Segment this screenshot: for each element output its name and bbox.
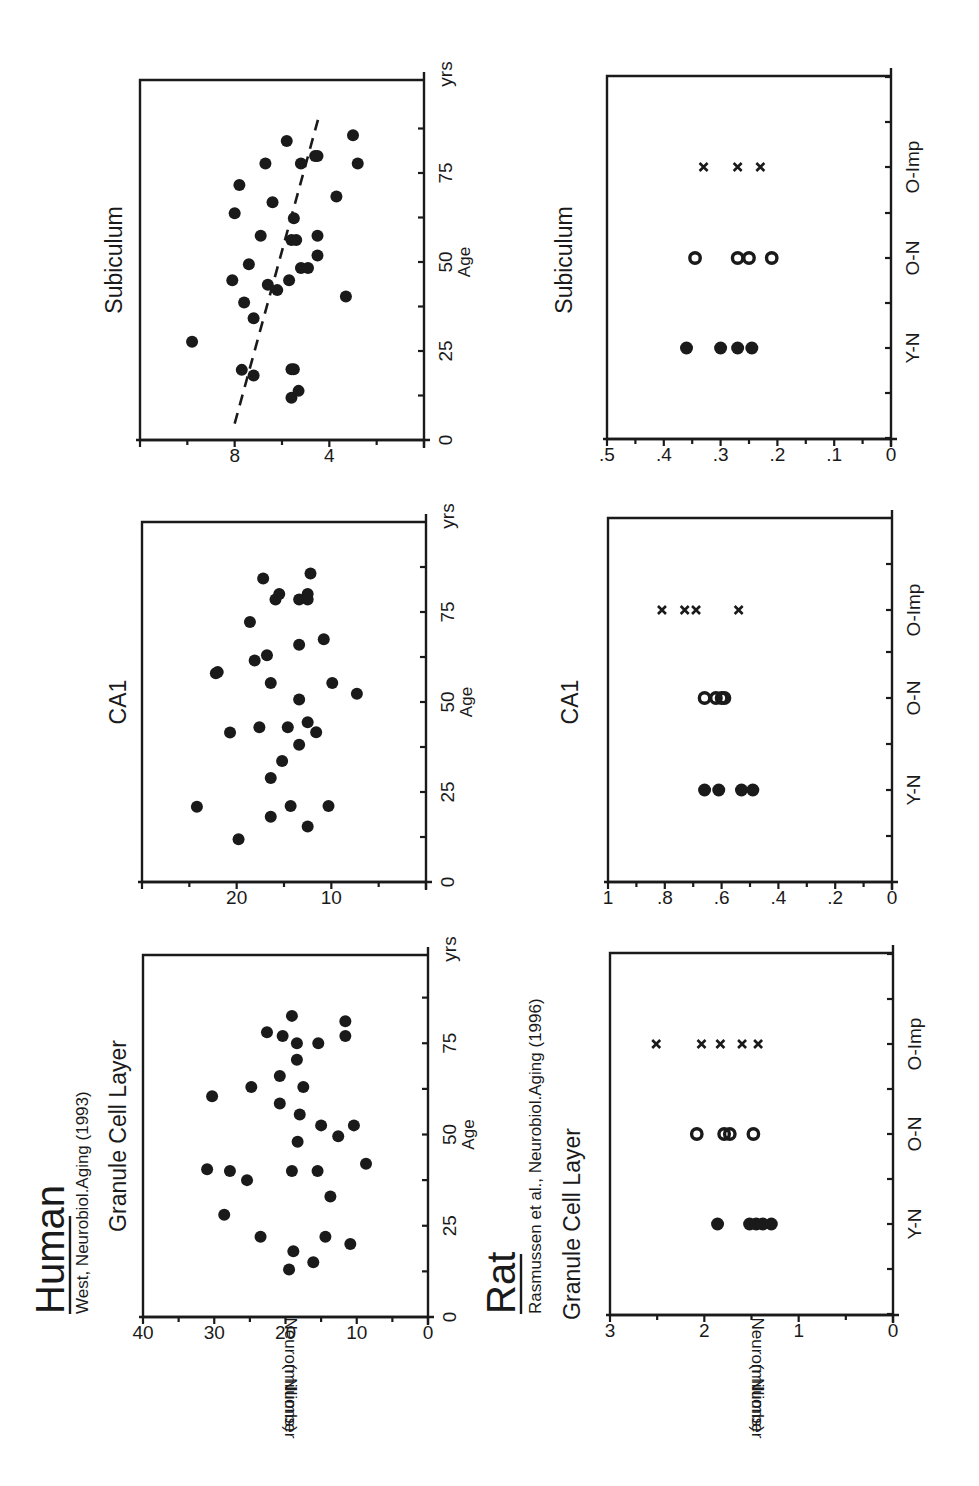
x-tick-label: 75 [437, 601, 458, 622]
panel-title: Granule Cell Layer [559, 1128, 585, 1320]
data-point-open [748, 1129, 758, 1139]
data-point [229, 207, 241, 219]
data-point-x [658, 606, 666, 614]
category-label: Y-N [903, 775, 924, 806]
data-point [348, 1119, 360, 1131]
data-point [293, 693, 305, 705]
data-point [310, 726, 322, 738]
y-tick-label: 3 [605, 1320, 616, 1341]
y-tick-label: 1 [793, 1320, 804, 1341]
y-tick-label: 20 [226, 887, 247, 908]
data-point [274, 1070, 286, 1082]
panel-human-ca1: CA110200255075yrsAge [105, 503, 476, 908]
category-label: Y-N [902, 333, 923, 364]
data-point [244, 616, 256, 628]
data-point [212, 666, 224, 678]
data-point [257, 573, 269, 585]
data-point [360, 1158, 372, 1170]
x-tick-label: 25 [437, 781, 458, 802]
x-tick-label: 50 [437, 691, 458, 712]
data-point [265, 677, 277, 689]
x-unit-label: yrs [439, 936, 460, 961]
data-point [312, 1165, 324, 1177]
y-tick-label: .6 [714, 887, 730, 908]
data-point [339, 1030, 351, 1042]
rat-section-header: Rat Rasmussen et al., Neurobiol.Aging (1… [479, 998, 545, 1314]
ylabel-line2: (millions) [281, 1364, 300, 1432]
data-point [330, 190, 342, 202]
x-axis-label: Age [455, 247, 474, 277]
data-point [283, 1264, 295, 1276]
plot-frame [142, 522, 426, 882]
data-point [288, 363, 300, 375]
y-tick-label: 1 [603, 887, 614, 908]
data-point [292, 1136, 304, 1148]
species-label-human: Human [28, 1185, 72, 1314]
data-point [276, 755, 288, 767]
data-point [248, 312, 260, 324]
species-label-rat: Rat [479, 1252, 523, 1314]
category-label: O-Imp [904, 1018, 925, 1071]
data-point-open [719, 693, 729, 703]
data-point-x [681, 606, 689, 614]
x-tick-label: 0 [435, 435, 456, 446]
data-point [238, 297, 250, 309]
human-section-header: Human West, Neurobiol.Aging (1993) [28, 1091, 92, 1314]
data-point-open [732, 253, 742, 263]
y-tick-label: 40 [132, 1322, 153, 1343]
y-tick-label: .2 [769, 444, 785, 465]
data-point-x [738, 1040, 746, 1048]
ylabel-line2: (millions) [748, 1364, 767, 1432]
data-point-filled [712, 784, 725, 797]
data-point [286, 1010, 298, 1022]
y-tick-label: 30 [204, 1322, 225, 1343]
data-point-filled [746, 784, 759, 797]
x-unit-label: yrs [437, 503, 458, 528]
citation-rat: Rasmussen et al., Neurobiol.Aging (1996) [526, 998, 545, 1314]
y-tick-label: 8 [229, 445, 240, 466]
data-point-open [699, 693, 709, 703]
data-point [282, 721, 294, 733]
plot-frame [610, 953, 893, 1315]
data-point [186, 336, 198, 348]
data-point-x [734, 163, 742, 171]
data-point-filled [731, 342, 744, 355]
data-point [255, 1231, 267, 1243]
category-label: O-N [903, 681, 924, 716]
x-tick-label: 75 [435, 162, 456, 183]
data-point [283, 274, 295, 286]
data-point [255, 230, 267, 242]
data-point [273, 588, 285, 600]
y-tick-label: 4 [324, 445, 335, 466]
y-tick-label: .4 [656, 444, 672, 465]
y-tick-label: 2 [699, 1320, 710, 1341]
panel-human-subiculum: Subiculum480255075yrsAge [101, 61, 474, 466]
data-point-filled [698, 784, 711, 797]
data-point [319, 1231, 331, 1243]
panel-rat-ca1: CA10.2.4.6.81Y-NO-NO-Imp [557, 510, 924, 908]
plot-frame [608, 518, 892, 882]
data-point-filled [745, 342, 758, 355]
y-tick-label: 0 [887, 887, 898, 908]
data-point-open [692, 1129, 702, 1139]
data-point-open [767, 253, 777, 263]
data-point [291, 1054, 303, 1066]
plot-frame [140, 80, 424, 440]
data-point [277, 1030, 289, 1042]
panel-title: Subiculum [551, 206, 577, 313]
data-point [312, 250, 324, 262]
category-label: O-N [904, 1117, 925, 1152]
data-point [352, 157, 364, 169]
x-tick-label: 25 [435, 340, 456, 361]
data-point [253, 721, 265, 733]
data-point [248, 370, 260, 382]
data-point [291, 1037, 303, 1049]
plot-frame [607, 76, 891, 439]
y-tick-label: 0 [886, 444, 897, 465]
y-tick-label: .5 [599, 444, 615, 465]
data-point [245, 1081, 257, 1093]
data-point [302, 716, 314, 728]
data-point [226, 274, 238, 286]
x-unit-label: yrs [435, 61, 456, 86]
panel-rat-subiculum: Subiculum0.1.2.3.4.5Y-NO-NO-Imp [551, 68, 923, 465]
